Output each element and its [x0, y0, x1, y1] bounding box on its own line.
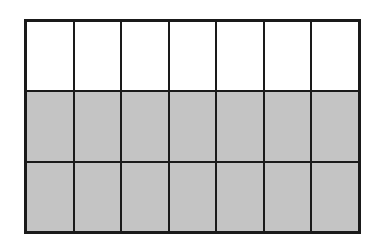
shaded-cell [264, 162, 312, 232]
unshaded-cell [216, 21, 264, 91]
unshaded-cell [26, 21, 74, 91]
shaded-cell [264, 91, 312, 161]
shaded-cell [216, 91, 264, 161]
shaded-cell [169, 162, 217, 232]
unshaded-cell [121, 21, 169, 91]
shaded-cell [26, 162, 74, 232]
unshaded-cell [169, 21, 217, 91]
shaded-cell [26, 91, 74, 161]
unshaded-cell [311, 21, 359, 91]
shaded-cell [121, 91, 169, 161]
fraction-grid [24, 19, 361, 234]
shaded-cell [121, 162, 169, 232]
shaded-cell [74, 91, 122, 161]
shaded-cell [311, 91, 359, 161]
shaded-cell [311, 162, 359, 232]
unshaded-cell [74, 21, 122, 91]
shaded-cell [74, 162, 122, 232]
unshaded-cell [264, 21, 312, 91]
shaded-cell [216, 162, 264, 232]
shaded-cell [169, 91, 217, 161]
